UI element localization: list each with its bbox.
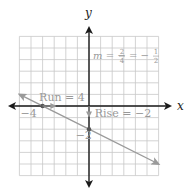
y-tick-label-neg2: −2 — [76, 129, 92, 142]
x-axis-label: x — [177, 99, 184, 113]
slope-equals: = − — [129, 50, 149, 61]
y-axis-label: y — [84, 6, 92, 20]
annotations: x y Run = 4 Rise = −2 m = − 2 4 = − 1 2 … — [21, 6, 184, 142]
x-tick-label-neg4: −4 — [21, 107, 37, 120]
run-annotation: Run = 4 — [39, 91, 85, 104]
slope-numerator-1: 2 — [120, 48, 124, 56]
rise-annotation: Rise = −2 — [95, 107, 151, 120]
coordinate-plane: x y Run = 4 Rise = −2 m = − 2 4 = − 1 2 … — [0, 0, 196, 194]
slope-numerator-2: 1 — [154, 48, 158, 56]
slope-denominator-1: 4 — [120, 57, 125, 65]
slope-annotation: m = − 2 4 = − 1 2 — [93, 48, 159, 65]
slope-denominator-2: 2 — [154, 57, 158, 65]
